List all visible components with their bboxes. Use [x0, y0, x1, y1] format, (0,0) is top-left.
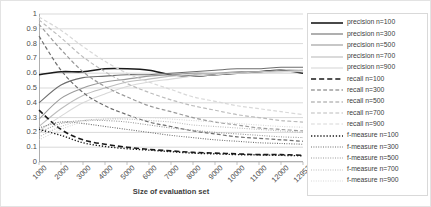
- legend-label: recall n=300: [347, 87, 384, 94]
- x-tick-label: 2000: [53, 164, 70, 181]
- y-tick-label: 0.2: [15, 129, 37, 137]
- legend-item[interactable]: recall n=300: [310, 85, 425, 96]
- y-tick-label: 0.3: [15, 114, 37, 122]
- legend-label: f-measure n=300: [347, 144, 399, 151]
- legend-item[interactable]: f-measure n=300: [310, 141, 425, 152]
- gridlines: [39, 14, 303, 162]
- legend-line-swatch: [310, 18, 344, 28]
- legend-item[interactable]: recall n=900: [310, 119, 425, 130]
- y-tick-label: 0.5: [15, 84, 37, 92]
- legend-item[interactable]: precision n=100: [310, 17, 425, 28]
- legend-label: precision n=300: [347, 31, 395, 38]
- legend-line-swatch: [310, 108, 344, 118]
- x-tick-label: 5000: [119, 164, 136, 181]
- legend-line-swatch: [310, 74, 344, 84]
- series-line: [39, 110, 303, 155]
- chart-figure: 10.90.80.70.60.50.40.30.20.10 1000200030…: [0, 0, 431, 207]
- line-chart-svg: [39, 14, 303, 162]
- legend-line-swatch: [310, 153, 344, 163]
- legend-line-swatch: [310, 97, 344, 107]
- y-tick-label: 0.4: [15, 99, 37, 107]
- legend-item[interactable]: precision n=300: [310, 28, 425, 39]
- legend-item[interactable]: f-measure n=900: [310, 175, 425, 186]
- legend-item[interactable]: f-measure n=700: [310, 164, 425, 175]
- legend-line-swatch: [310, 131, 344, 141]
- y-tick-label: 0.6: [15, 69, 37, 77]
- legend-label: f-measure n=500: [347, 155, 399, 162]
- x-axis-title: Size of evaluation set: [39, 187, 303, 196]
- series-line: [39, 120, 303, 137]
- y-axis: 10.90.80.70.60.50.40.30.20.10: [15, 14, 37, 162]
- x-tick-label: 10000: [226, 164, 246, 184]
- x-tick-label: 9000: [207, 164, 224, 181]
- x-tick-label: 4000: [97, 164, 114, 181]
- legend-label: f-measure n=700: [347, 166, 399, 173]
- legend-item[interactable]: f-measure n=100: [310, 130, 425, 141]
- legend-label: precision n=100: [347, 19, 395, 26]
- x-tick-label: 8000: [185, 164, 202, 181]
- legend-line-swatch: [310, 176, 344, 186]
- legend-line-swatch: [310, 29, 344, 39]
- legend-line-swatch: [310, 63, 344, 73]
- x-tick-label: 6000: [141, 164, 158, 181]
- legend-label: f-measure n=100: [347, 132, 399, 139]
- legend-item[interactable]: recall n=700: [310, 107, 425, 118]
- legend-label: recall n=700: [347, 110, 384, 117]
- legend-line-swatch: [310, 165, 344, 175]
- y-tick-label: 0: [15, 158, 37, 166]
- legend-line-swatch: [310, 142, 344, 152]
- legend-line-swatch: [310, 119, 344, 129]
- legend-line-swatch: [310, 85, 344, 95]
- legend-label: precision n=700: [347, 53, 395, 60]
- legend-item[interactable]: precision n=500: [310, 40, 425, 51]
- y-tick-label: 0.7: [15, 55, 37, 63]
- legend-label: f-measure n=900: [347, 177, 399, 184]
- legend-line-swatch: [310, 40, 344, 50]
- legend-item[interactable]: precision n=700: [310, 51, 425, 62]
- plot-area: [39, 14, 303, 162]
- x-tick-label: 12000: [270, 164, 290, 184]
- y-tick-label: 1: [15, 10, 37, 18]
- legend-label: recall n=500: [347, 98, 384, 105]
- legend-item[interactable]: precision n=900: [310, 62, 425, 73]
- y-tick-label: 0.8: [15, 40, 37, 48]
- legend-item[interactable]: f-measure n=500: [310, 153, 425, 164]
- legend-item[interactable]: recall n=100: [310, 73, 425, 84]
- legend-label: precision n=900: [347, 64, 395, 71]
- x-tick-label: 3000: [75, 164, 92, 181]
- legend-label: precision n=500: [347, 42, 395, 49]
- y-tick-label: 0.1: [15, 143, 37, 151]
- y-tick-label: 0.9: [15, 25, 37, 33]
- series-line: [39, 24, 303, 131]
- x-tick-label: 11000: [249, 164, 269, 184]
- x-tick-label: 7000: [163, 164, 180, 181]
- chart-legend: precision n=100precision n=300precision …: [307, 13, 428, 196]
- series-group: [39, 17, 303, 156]
- legend-item[interactable]: recall n=500: [310, 96, 425, 107]
- x-tick-label: 1000: [31, 164, 48, 181]
- legend-line-swatch: [310, 52, 344, 62]
- legend-label: recall n=900: [347, 121, 384, 128]
- legend-label: recall n=100: [347, 76, 384, 83]
